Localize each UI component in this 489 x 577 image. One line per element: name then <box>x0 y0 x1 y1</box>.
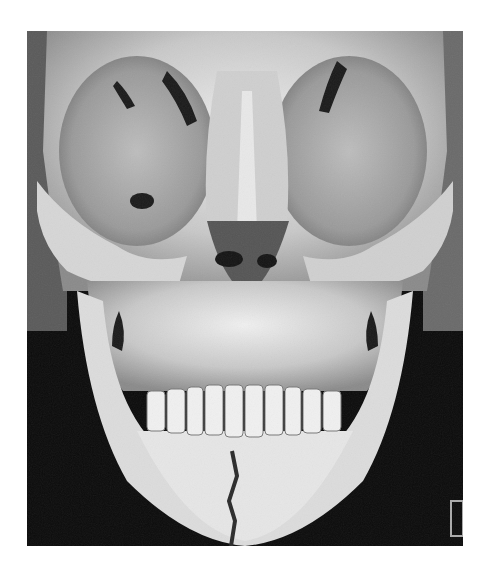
skull-illustration <box>27 31 463 546</box>
noise-overlay <box>27 31 463 546</box>
ct-scan-image <box>27 31 463 546</box>
